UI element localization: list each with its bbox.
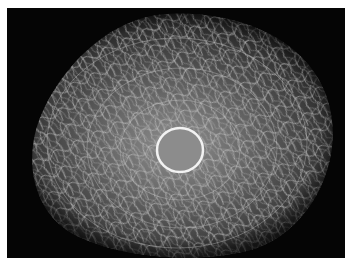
- micrograph-frame: [7, 8, 345, 258]
- nucleus: [157, 128, 203, 172]
- cell-micrograph: [7, 8, 345, 258]
